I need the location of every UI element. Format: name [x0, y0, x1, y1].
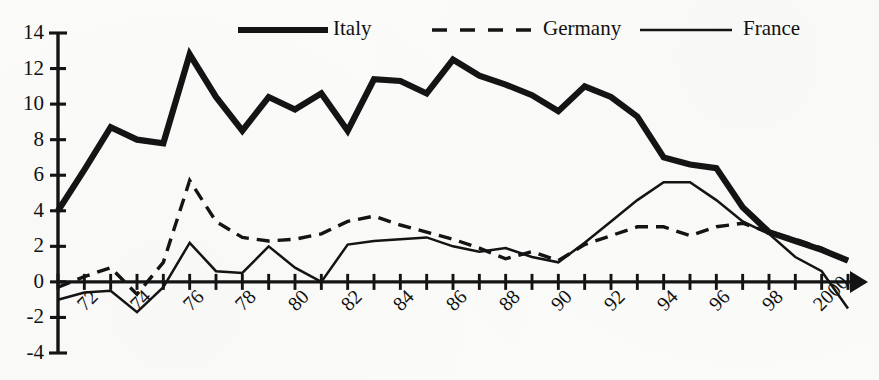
y-axis-tick-label: 8 [0, 129, 44, 150]
y-axis-tick-label: 0 [0, 271, 44, 292]
x-axis-arrow-icon [850, 271, 868, 293]
series-line-italy [58, 54, 848, 260]
y-axis-tick-label: 12 [0, 58, 44, 79]
y-axis-tick-label: 14 [0, 22, 44, 43]
y-axis-tick-label: -4 [0, 342, 44, 363]
chart-page: -4-2024681012147274767880828486889092949… [0, 0, 879, 380]
line-chart [0, 0, 879, 380]
y-axis-tick-label: 10 [0, 93, 44, 114]
y-axis-tick-label: 4 [0, 200, 44, 221]
y-axis-tick-label: -2 [0, 306, 44, 327]
y-axis-tick-label: 2 [0, 235, 44, 256]
legend-label-italy[interactable]: Italy [333, 18, 371, 39]
y-axis-tick-label: 6 [0, 164, 44, 185]
legend-label-germany[interactable]: Germany [543, 18, 621, 39]
legend-label-france[interactable]: France [743, 18, 800, 39]
